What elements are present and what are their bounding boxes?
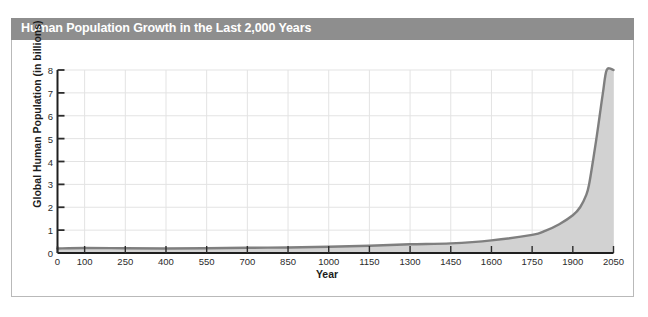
chart-title: Human Population Growth in the Last 2,00… xyxy=(21,21,311,35)
figure-frame xyxy=(11,18,634,297)
chart-title-bar: Human Population Growth in the Last 2,00… xyxy=(11,18,634,40)
